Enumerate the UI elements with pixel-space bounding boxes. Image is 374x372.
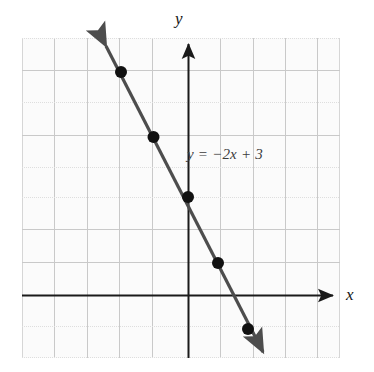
data-point	[212, 257, 224, 269]
data-point	[182, 191, 194, 203]
x-axis-label: x	[346, 286, 354, 303]
graph-figure: y x y = −2x + 3	[0, 0, 374, 372]
y-axis-label: y	[175, 10, 183, 27]
data-point	[115, 66, 127, 78]
coordinate-plane-svg	[0, 0, 374, 372]
data-point	[242, 323, 254, 335]
data-point	[148, 131, 160, 143]
equation-annotation: y = −2x + 3	[187, 147, 263, 162]
